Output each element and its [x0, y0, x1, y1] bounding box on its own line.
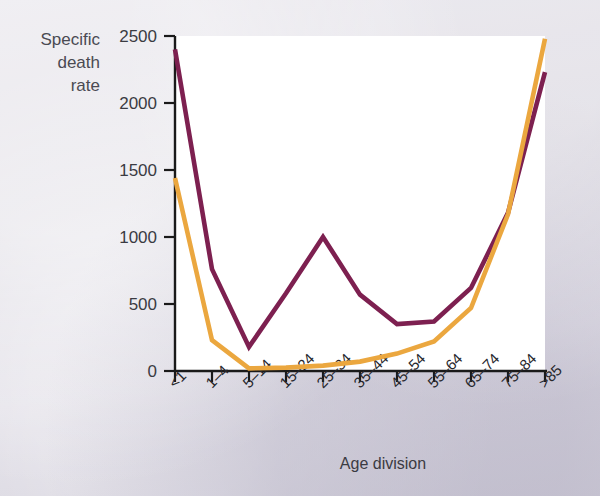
y-tick-label-1500: 1500: [119, 161, 157, 180]
y-axis-ticks: [164, 36, 175, 371]
plot-area-background: [175, 36, 545, 371]
y-tick-label-2500: 2500: [119, 27, 157, 46]
chart-svg: 05001000150020002500 <11–45–1415–2425–34…: [0, 0, 600, 496]
y-axis-title-line-3: rate: [71, 76, 100, 95]
y-axis-title-line-1: Specific: [40, 30, 100, 49]
chart-figure: 05001000150020002500 <11–45–1415–2425–34…: [0, 0, 600, 496]
y-tick-label-2000: 2000: [119, 94, 157, 113]
y-tick-label-0: 0: [148, 362, 157, 381]
y-tick-label-1000: 1000: [119, 228, 157, 247]
x-axis-title: Age division: [340, 455, 426, 472]
y-axis-tick-labels: 05001000150020002500: [119, 27, 157, 381]
y-tick-label-500: 500: [129, 295, 157, 314]
y-axis-title-line-2: death: [57, 53, 100, 72]
